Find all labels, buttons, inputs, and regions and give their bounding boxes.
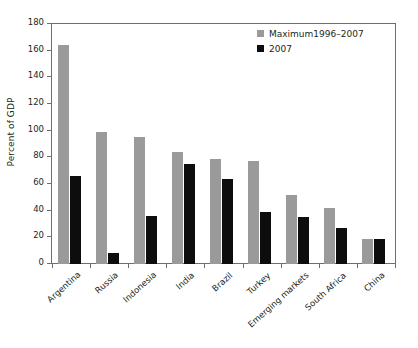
- chart-legend: Maximum1996–2007 2007: [257, 27, 397, 57]
- y-tick-label: 120: [28, 97, 44, 107]
- bar-maximum: [210, 159, 221, 264]
- bar-2007: [298, 217, 309, 264]
- x-axis-label: Indonesia: [121, 270, 158, 305]
- bar-group: [281, 24, 319, 264]
- bar-maximum: [248, 161, 259, 264]
- bar-maximum: [134, 137, 145, 264]
- y-tick-label: 60: [33, 177, 44, 187]
- bar-2007: [184, 164, 195, 264]
- bars-layer: [52, 24, 395, 264]
- bar-maximum: [58, 45, 69, 264]
- y-tick-label: 40: [33, 204, 44, 214]
- x-axis-label: Turkey: [245, 270, 272, 296]
- x-axis-label: China: [362, 270, 387, 294]
- bar-maximum: [362, 239, 373, 264]
- bar-maximum: [172, 152, 183, 264]
- bar-group: [166, 24, 204, 264]
- bar-group: [52, 24, 90, 264]
- bar-maximum: [286, 195, 297, 264]
- y-axis-ticks: 020406080100120140160180: [0, 23, 51, 264]
- bar-2007: [336, 228, 347, 264]
- bar-2007: [260, 212, 271, 264]
- bar-maximum: [96, 132, 107, 264]
- bar-group: [128, 24, 166, 264]
- legend-item-label: Maximum1996–2007: [269, 29, 364, 39]
- y-tick-label: 180: [28, 17, 44, 27]
- legend-item-maximum: Maximum1996–2007: [257, 27, 397, 40]
- x-axis-label: Brazil: [210, 270, 234, 293]
- bar-group: [204, 24, 242, 264]
- x-axis-labels: ArgentinaRussiaIndonesiaIndiaBrazilTurke…: [0, 264, 418, 348]
- y-tick-label: 100: [28, 124, 44, 134]
- y-tick-label: 140: [28, 70, 44, 80]
- y-tick-label: 20: [33, 230, 44, 240]
- legend-item-2007: 2007: [257, 42, 397, 55]
- bar-group: [90, 24, 128, 264]
- bar-2007: [374, 239, 385, 264]
- bar-2007: [222, 179, 233, 264]
- y-tick-label: 160: [28, 44, 44, 54]
- legend-item-label: 2007: [269, 44, 292, 54]
- x-axis-label: India: [174, 270, 196, 291]
- gray-swatch-icon: [257, 30, 264, 37]
- bar-group: [319, 24, 357, 264]
- bar-2007: [108, 253, 119, 264]
- bar-2007: [146, 216, 157, 264]
- black-swatch-icon: [257, 45, 264, 52]
- bar-group: [243, 24, 281, 264]
- x-axis-label: Argentina: [45, 270, 83, 305]
- bar-maximum: [324, 208, 335, 264]
- y-tick-label: 80: [33, 150, 44, 160]
- bar-group: [357, 24, 395, 264]
- bar-2007: [70, 176, 81, 264]
- x-axis-label: Russia: [93, 270, 120, 296]
- bar-chart-figure: Percent of GDP 020406080100120140160180 …: [0, 0, 418, 348]
